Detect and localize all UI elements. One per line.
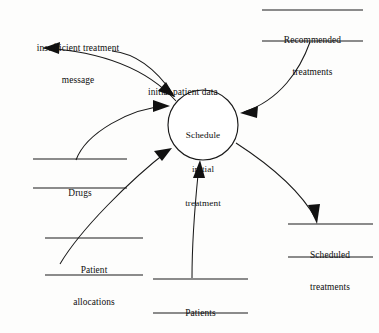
store-label-line-2: treatments (288, 282, 372, 293)
store-label-line-1: Patients (153, 308, 248, 319)
store-label-line-1: Patient (45, 265, 143, 276)
flow-label-insufficient-treatment-message: insufficient treatment message (8, 22, 148, 106)
dfd-canvas: Schedule initial treatment insufficient … (0, 0, 379, 333)
store-label-line-1: Drugs (33, 188, 127, 199)
store-label-recommended-treatments: Recommended treatments (262, 14, 363, 98)
flow-line-scheduled-treatments (236, 143, 316, 219)
store-label-scheduled-treatments: Scheduled treatments (288, 229, 372, 313)
flow-label-line-1: insufficient treatment (8, 43, 148, 54)
process-label-line-2: initial (168, 164, 238, 175)
store-label-line-2: treatments (262, 67, 363, 78)
store-label-line-1: Scheduled (288, 250, 372, 261)
process-label-schedule-initial-treatment: Schedule initial treatment (168, 108, 238, 231)
process-label-line-3: treatment (168, 198, 238, 209)
store-label-line-1: Recommended (262, 35, 363, 46)
store-label-patients: Patients (153, 287, 248, 333)
flow-label-line-1: initial patient data (148, 87, 260, 98)
flow-label-initial-patient-data: initial patient data (148, 66, 260, 119)
flow-label-line-2: message (8, 75, 148, 86)
flow-scheduled-treatments (236, 143, 320, 224)
store-label-patient-allocations: Patient allocations (45, 244, 143, 328)
process-label-line-1: Schedule (168, 130, 238, 141)
store-label-line-2: allocations (45, 297, 143, 308)
store-label-drugs: Drugs (33, 167, 127, 220)
arrowhead-scheduled-treatments (308, 204, 320, 224)
